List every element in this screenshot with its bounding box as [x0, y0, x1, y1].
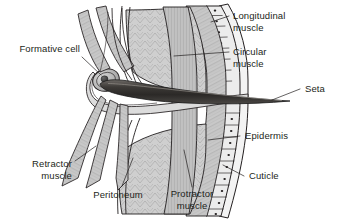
- label-longitudinal-muscle-line2: muscle: [233, 22, 264, 33]
- label-circular-muscle-line2: muscle: [233, 58, 264, 69]
- label-seta: Seta: [305, 83, 326, 94]
- label-protractor-muscle-line1: Protractor: [171, 188, 214, 199]
- label-retractor-muscle-line2: muscle: [41, 170, 72, 181]
- label-cuticle: Cuticle: [249, 170, 279, 181]
- label-retractor-muscle-line1: Retractor: [32, 158, 72, 169]
- diagram-canvas: Formative cell Longitudinal muscle Circu…: [0, 0, 351, 222]
- label-longitudinal-muscle-line1: Longitudinal: [233, 10, 285, 21]
- anatomical-diagram-figure: Formative cell Longitudinal muscle Circu…: [0, 0, 351, 222]
- label-protractor-muscle-line2: muscle: [177, 200, 208, 211]
- label-formative-cell: Formative cell: [19, 43, 80, 54]
- label-circular-muscle-line1: Circular: [233, 46, 267, 57]
- label-epidermis: Epidermis: [245, 130, 288, 141]
- label-peritoneum: Peritoneum: [93, 189, 143, 200]
- leader-seta: [272, 89, 300, 100]
